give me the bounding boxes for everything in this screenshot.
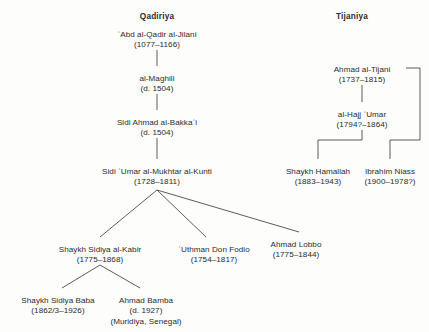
lineage-diagram: Qadiriya Tijaniya ʿAbd al-Qadir al-Jilan… [0,0,429,332]
node-dates: (d. 1504) [139,84,174,94]
node-name: al-Hajj ʿUmar [336,110,387,120]
node-sidi-umar-al-mukhtar-al-kunti: Sidi ʿUmar al-Mukhtar al-Kunti (1728–181… [102,167,212,188]
node-shaykh-sidiya-baba: Shaykh Sidiya Baba (1862/3–1926) [21,296,94,317]
node-name: Shaykh Sidiya al-Kabir [59,245,142,255]
node-name: ʿUthman Don Fodio [178,245,249,255]
column-header-tijaniya: Tijaniya [336,12,368,21]
node-shaykh-hamallah: Shaykh Hamallah (1883–1943) [286,167,350,188]
edge-hajj-umar-bracket-to-hamallah [318,130,362,159]
node-name: Ahmad al-Tijani [334,65,391,75]
node-dates: (1775–1844) [271,250,322,260]
edge-kabir-sidiya-baba [62,265,100,288]
node-shaykh-sidiya-al-kabir: Shaykh Sidiya al-Kabir (1775–1868) [59,245,142,266]
node-sidi-ahmad-al-bakkai: Sidi Ahmad al-Bakkaʿi (d. 1504) [117,118,197,139]
node-name: Shaykh Hamallah [286,167,350,177]
node-dates: (1737–1815) [334,75,391,85]
node-name: Sidi Ahmad al-Bakkaʿi [117,118,197,128]
node-dates: (1077–1166) [118,40,197,50]
node-ahmad-lobbo: Ahmad Lobbo (1775–1844) [271,240,322,261]
node-dates: (1883–1943) [286,177,350,187]
node-abd-al-qadir-al-jilani: ʿAbd al-Qadir al-Jilani (1077–1166) [118,30,197,51]
node-al-hajj-umar: al-Hajj ʿUmar (1794?–1864) [336,110,387,131]
node-name: ʿAbd al-Qadir al-Jilani [118,30,197,40]
node-dates: (d. 1504) [117,128,197,138]
node-uthman-don-fodio: ʿUthman Don Fodio (1754–1817) [178,245,249,266]
node-ahmad-al-tijani: Ahmad al-Tijani (1737–1815) [334,65,391,86]
node-dates: (d. 1927) [110,306,181,316]
edge-kunti-sidiya-kabir [100,190,157,237]
node-dates: (1862/3–1926) [21,306,94,316]
column-header-qadiriya: Qadiriya [140,12,174,21]
node-dates: (1754–1817) [178,255,249,265]
node-dates: (1794?–1864) [336,120,387,130]
connector-lines [0,0,429,332]
edge-kabir-ahmad-bamba [100,265,140,288]
node-name: Shaykh Sidiya Baba [21,296,94,306]
node-name: Ibrahim Niass [364,167,415,177]
node-dates: (1728–1811) [102,177,212,187]
node-dates: (1775–1868) [59,255,142,265]
node-ahmad-bamba: Ahmad Bamba (d. 1927) (Muridiya, Senegal… [110,296,181,327]
node-name: Ahmad Bamba [110,296,181,306]
node-annotation: (Muridiya, Senegal) [110,317,181,327]
node-name: Sidi ʿUmar al-Mukhtar al-Kunti [102,167,212,177]
node-name: al-Maghili [139,74,174,84]
node-name: Ahmad Lobbo [271,240,322,250]
edge-tijani-bracket-to-niass [390,68,420,159]
node-dates: (1900–1978?) [364,177,415,187]
node-al-maghili: al-Maghili (d. 1504) [139,74,174,95]
node-ibrahim-niass: Ibrahim Niass (1900–1978?) [364,167,415,188]
